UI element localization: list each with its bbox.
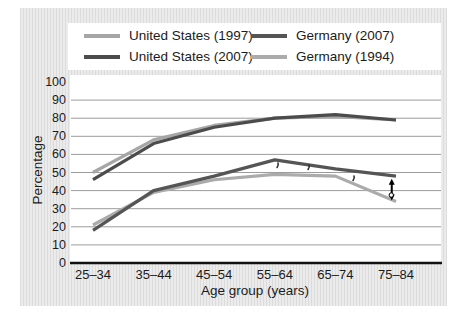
gap-arrow-circle-mark [389, 193, 393, 197]
gridlines [70, 100, 442, 263]
x-tick-label-5: 65–74 [317, 267, 353, 282]
y-axis-title: Percentage [30, 135, 45, 204]
y-tick-label-90: 90 [0, 93, 66, 107]
y-tick-label-0: 0 [0, 256, 66, 270]
x-tick-label-4: 55–64 [257, 267, 293, 282]
y-tick-label-100: 100 [0, 75, 66, 89]
x-axis-title: Age group (years) [201, 283, 309, 298]
gap-arrow-head-up [389, 179, 395, 185]
stray-print-mark-1 [277, 163, 278, 167]
x-tick-label-1: 25–34 [75, 267, 111, 282]
stray-print-mark-3 [353, 176, 354, 180]
y-tick-label-80: 80 [0, 111, 66, 125]
x-tick-label-6: 75–84 [378, 267, 414, 282]
y-tick-label-20: 20 [0, 220, 66, 234]
series-line-united-states-1997 [93, 116, 396, 172]
series-line-germany-2007 [93, 160, 396, 231]
x-tick-label-3: 45–54 [196, 267, 232, 282]
x-tick-label-2: 35–44 [136, 267, 172, 282]
y-tick-label-10: 10 [0, 238, 66, 252]
